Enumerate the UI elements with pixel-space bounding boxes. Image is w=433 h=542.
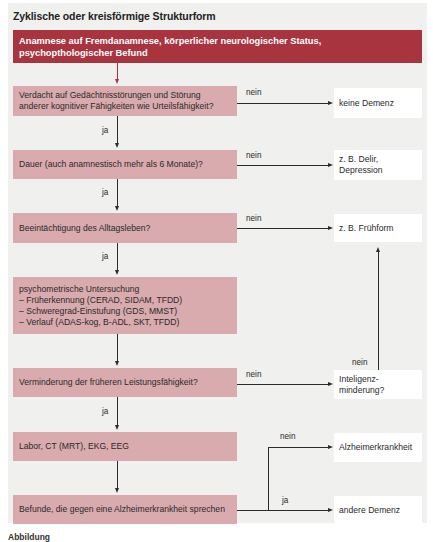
no-label: nein (352, 358, 367, 367)
decision-text: Befunde, die gegen eine Alzheimerkrankhe… (19, 504, 231, 515)
arrow-right-icon (328, 163, 333, 167)
arrow-down-icon (115, 361, 119, 366)
connector-line (117, 461, 118, 488)
connector-line (117, 63, 118, 79)
connector-line (117, 179, 118, 206)
yes-label: ja (282, 496, 288, 505)
arrow-right-icon (328, 445, 333, 449)
arrow-down-icon (115, 488, 119, 493)
decision-box-befunde: Befunde, die gegen eine Alzheimerkrankhe… (13, 495, 237, 524)
arrow-right-icon (328, 382, 333, 386)
header-box-line-2: psychopthologischer Befund (19, 47, 416, 59)
yes-label: ja (102, 126, 108, 135)
connector-line (268, 447, 269, 510)
decision-text: – Verlauf (ADAS-kog, B-ADL, SKT, TFDD) (19, 317, 231, 328)
outcome-text: Depression (339, 165, 417, 176)
connector-line (117, 334, 118, 361)
no-label: nein (246, 370, 261, 379)
arrow-up-icon (376, 247, 380, 252)
connector-line (237, 165, 329, 166)
yes-label: ja (102, 188, 108, 197)
outcome-box-intelligenzminderung: Inteligenz- minderung? (334, 370, 422, 399)
arrow-down-icon (115, 143, 119, 148)
no-label: nein (280, 432, 295, 441)
connector-line (237, 228, 329, 229)
outcome-text: keine Demenz (339, 98, 417, 109)
outcome-text: z. B. Frühform (339, 223, 417, 234)
decision-box-verdacht: Verdacht auf Gedächtnisstörungen und Stö… (13, 86, 237, 116)
connector-line (237, 103, 329, 104)
decision-text: psychometrische Untersuchung (19, 284, 231, 295)
arrow-down-icon (115, 425, 119, 430)
outcome-text: Alzheimerkrankheit (339, 442, 417, 453)
arrow-right-icon (328, 101, 333, 105)
outcome-text: z. B. Delir, (339, 154, 417, 165)
yes-label: ja (102, 407, 108, 416)
arrow-down-icon (115, 79, 119, 84)
arrow-right-icon (328, 226, 333, 230)
outcome-box-fruehform: z. B. Frühform (334, 214, 422, 242)
arrow-right-icon (328, 508, 333, 512)
outcome-text: Inteligenz- (339, 374, 417, 385)
diagram-title: Zyklische oder kreisförmige Strukturform (13, 10, 216, 22)
decision-box-alltag: Beeintächtigung des Alltagsleben? (13, 213, 237, 243)
no-label: nein (246, 151, 261, 160)
no-label: nein (246, 214, 261, 223)
arrow-down-icon (115, 206, 119, 211)
arrow-down-icon (115, 270, 119, 275)
decision-text: Dauer (auch anamnestisch mehr als 6 Mona… (19, 159, 231, 170)
decision-box-labor: Labor, CT (MRT), EKG, EEG (13, 432, 237, 461)
decision-text: Beeintächtigung des Alltagsleben? (19, 223, 231, 234)
header-box-anamnese: Anamnese auf Fremdanamnese, körperlicher… (13, 30, 422, 63)
connector-line (237, 510, 329, 511)
outcome-text: andere Demenz (339, 505, 417, 516)
decision-text: Verminderung der früheren Leistungsfähig… (19, 377, 231, 388)
yes-label: ja (102, 252, 108, 261)
decision-box-verminderung: Verminderung der früheren Leistungsfähig… (13, 368, 237, 397)
outcome-box-delir: z. B. Delir, Depression (334, 150, 422, 180)
figure-caption: Abbildung (8, 532, 50, 542)
decision-text: – Schweregrad-Einstufung (GDS, MMST) (19, 306, 231, 317)
decision-box-dauer: Dauer (auch anamnestisch mehr als 6 Mona… (13, 150, 237, 179)
decision-text: anderer kognitiver Fähigkeiten wie Urtei… (19, 101, 231, 112)
connector-line (117, 397, 118, 425)
no-label: nein (246, 88, 261, 97)
connector-line (237, 384, 329, 385)
outcome-box-andere-demenz: andere Demenz (334, 496, 422, 525)
outcome-box-keine-demenz: keine Demenz (334, 88, 422, 118)
outcome-text: minderung? (339, 385, 417, 396)
decision-text: Labor, CT (MRT), EKG, EEG (19, 441, 231, 452)
connector-line (117, 243, 118, 270)
connector-line (117, 116, 118, 143)
decision-box-psychometrie: psychometrische Untersuchung – Früherken… (13, 277, 237, 334)
outcome-box-alzheimer: Alzheimerkrankheit (334, 433, 422, 462)
decision-text: – Früherkennung (CERAD, SIDAM, TFDD) (19, 295, 231, 306)
connector-line (378, 251, 379, 370)
decision-text: Verdacht auf Gedächtnisstörungen und Stö… (19, 90, 231, 101)
header-box-line-1: Anamnese auf Fremdanamnese, körperlicher… (19, 35, 416, 47)
connector-line (268, 447, 329, 448)
